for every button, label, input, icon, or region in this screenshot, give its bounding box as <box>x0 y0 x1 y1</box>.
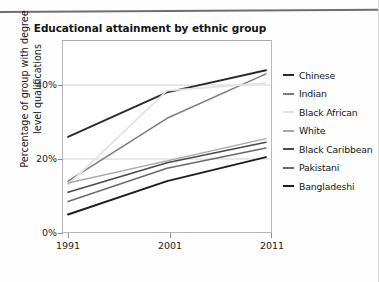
legend-swatch-bangladeshi <box>283 185 294 187</box>
legend-item-chinese[interactable]: Chinese <box>283 66 379 85</box>
x-tick-label-2011: 2011 <box>247 240 297 251</box>
y-tick-label-40: 40% <box>17 79 57 90</box>
legend-swatch-white <box>283 130 294 132</box>
chart-page: Educational attainment by ethnic group P… <box>0 0 379 282</box>
legend-label-pakistani: Pakistani <box>299 162 339 173</box>
y-tick-mark-40 <box>58 85 63 86</box>
legend-swatch-pakistani <box>283 167 294 169</box>
legend-swatch-indian <box>283 93 294 95</box>
y-tick-label-0: 0% <box>17 227 57 238</box>
y-tick-label-20: 20% <box>17 153 57 164</box>
legend-label-black-african: Black African <box>299 107 358 118</box>
legend-item-pakistani[interactable]: Pakistani <box>283 159 379 178</box>
y-tick-mark-0 <box>58 233 63 234</box>
x-tick-label-2001: 2001 <box>145 240 195 251</box>
x-tick-mark-2011 <box>271 233 272 238</box>
series-line-bangladeshi <box>68 157 266 214</box>
legend-label-bangladeshi: Bangladeshi <box>299 181 354 192</box>
y-tick-mark-20 <box>58 159 63 160</box>
x-tick-label-1991: 1991 <box>43 240 93 251</box>
legend-label-white: White <box>299 125 325 136</box>
series-line-black-caribbean <box>68 142 266 192</box>
legend-item-white[interactable]: White <box>283 122 379 141</box>
series-line-chinese <box>68 70 266 137</box>
top-divider <box>0 9 379 13</box>
legend-label-black-caribbean: Black Caribbean <box>299 144 373 155</box>
series-line-black-african <box>68 83 266 185</box>
legend-label-chinese: Chinese <box>299 70 335 81</box>
plot-lines <box>62 40 272 233</box>
legend-swatch-black-african <box>283 111 294 113</box>
legend-item-black-african[interactable]: Black African <box>283 103 379 122</box>
legend-item-black-caribbean[interactable]: Black Caribbean <box>283 140 379 159</box>
series-line-white <box>68 139 266 183</box>
legend-item-indian[interactable]: Indian <box>283 85 379 104</box>
legend-swatch-black-caribbean <box>283 148 294 150</box>
legend-label-indian: Indian <box>299 88 327 99</box>
legend-swatch-chinese <box>283 74 294 76</box>
chart-title: Educational attainment by ethnic group <box>0 22 300 34</box>
legend-item-bangladeshi[interactable]: Bangladeshi <box>283 177 379 196</box>
x-tick-mark-2001 <box>170 233 171 238</box>
chart-legend: ChineseIndianBlack AfricanWhiteBlack Car… <box>283 66 379 196</box>
x-tick-mark-1991 <box>68 233 69 238</box>
